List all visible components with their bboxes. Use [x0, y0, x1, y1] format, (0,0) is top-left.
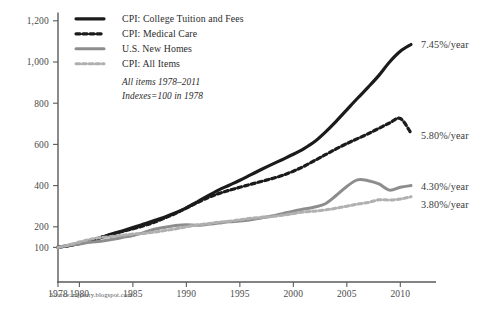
x-axis-tick-label: 2005 — [337, 289, 357, 299]
chart-legend: CPI: College Tuition and FeesCPI: Medica… — [76, 13, 244, 101]
cpi-index-line-chart: 1002004006008001,0001,200 19781980198519… — [0, 0, 504, 314]
chart-container: 1002004006008001,0001,200 19781980198519… — [0, 0, 504, 314]
y-axis-tick-label: 400 — [34, 181, 49, 191]
annotation-0: 7.45%/year — [421, 39, 469, 50]
source-label: Source: mjperry.blogspot.com — [50, 291, 133, 298]
legend-label-0: CPI: College Tuition and Fees — [122, 13, 244, 24]
x-axis-tick-label: 1990 — [176, 289, 196, 299]
series-annotations: 7.45%/year5.80%/year4.30%/year3.80%/year — [421, 39, 469, 210]
annotation-2: 4.30%/year — [421, 181, 469, 192]
legend-label-3: CPI: All Items — [122, 58, 180, 69]
y-axis-tick-label: 200 — [34, 222, 49, 232]
legend-label-2: U.S. New Homes — [122, 43, 192, 54]
y-axis-tick-label: 1,000 — [27, 57, 49, 67]
y-axis-tick-label: 100 — [34, 243, 49, 253]
y-axis-tick-label: 600 — [34, 140, 49, 150]
annotation-1: 5.80%/year — [421, 130, 469, 141]
y-axis-tick-label: 1,200 — [27, 16, 49, 26]
legend-note-1: Indexes=100 in 1978 — [121, 91, 203, 101]
legend-label-1: CPI: Medical Care — [122, 28, 198, 39]
x-axis-tick-label: 2000 — [283, 289, 303, 299]
y-axis: 1002004006008001,0001,200 — [27, 13, 58, 282]
x-axis-tick-label: 2010 — [390, 289, 410, 299]
series-layer — [58, 44, 411, 247]
annotation-3: 3.80%/year — [421, 199, 469, 210]
x-axis-tick-label: 1995 — [230, 289, 250, 299]
y-axis-tick-label: 800 — [34, 99, 49, 109]
series-line-0 — [58, 44, 411, 247]
legend-note-0: All items 1978–2011 — [121, 77, 200, 87]
